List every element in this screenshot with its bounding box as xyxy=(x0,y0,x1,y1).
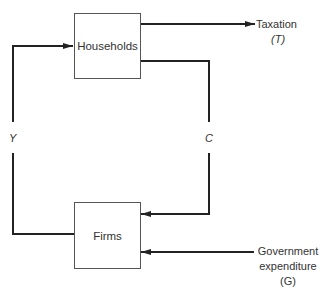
consumption-label: C xyxy=(205,131,213,145)
government-expenditure-label: Government expenditure (G) xyxy=(254,244,322,288)
firms-box: Firms xyxy=(74,202,141,269)
taxation-label: Taxation xyxy=(256,17,297,31)
taxation-symbol: (T) xyxy=(271,32,285,46)
income-flow-lower xyxy=(13,153,74,234)
income-flow-upper xyxy=(13,46,73,122)
government-line1: Government xyxy=(254,244,322,258)
households-label: Households xyxy=(77,40,138,52)
households-box: Households xyxy=(74,13,141,79)
consumption-flow-lower xyxy=(141,153,209,214)
firms-label: Firms xyxy=(93,230,122,242)
income-label: Y xyxy=(9,131,16,145)
government-symbol: (G) xyxy=(254,274,322,288)
consumption-flow-upper xyxy=(140,61,209,122)
government-line2: expenditure xyxy=(254,259,322,273)
